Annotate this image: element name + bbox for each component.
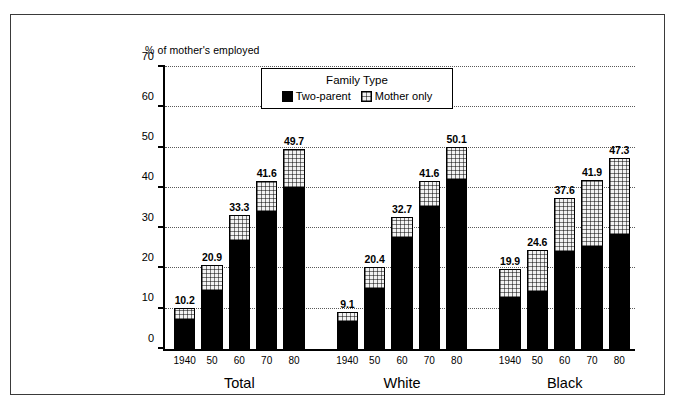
stacked-bar[interactable]: 19.9 xyxy=(499,269,520,349)
bar-slot: 33.360 xyxy=(226,67,253,349)
bar-slot: 20.950 xyxy=(198,67,225,349)
bar-slot: 32.760 xyxy=(388,67,415,349)
bar-segment-mother-only xyxy=(337,312,358,322)
y-tick-50 xyxy=(158,146,165,148)
bars-layer: 10.2194020.95033.36041.67049.780Total9.1… xyxy=(165,67,635,349)
x-axis-label: 50 xyxy=(532,355,543,366)
bar-segment-mother-only xyxy=(229,215,250,241)
bar-slot: 37.660 xyxy=(551,67,578,349)
bar-group-total: 10.2194020.95033.36041.67049.780Total xyxy=(171,67,308,349)
y-tick-20 xyxy=(158,266,165,268)
bar-segment-mother-only xyxy=(446,147,467,180)
legend-swatch-icon xyxy=(361,91,372,102)
bar-value-label: 41.6 xyxy=(419,167,439,179)
stacked-bar[interactable]: 32.7 xyxy=(391,217,412,349)
x-axis-label: 80 xyxy=(614,355,625,366)
bar-slot: 41.970 xyxy=(578,67,605,349)
group-label-white: White xyxy=(383,375,420,391)
bar-segment-mother-only xyxy=(554,198,575,253)
y-tick-60 xyxy=(158,105,165,107)
bar-value-label: 47.3 xyxy=(609,144,629,156)
group-label-total: Total xyxy=(224,375,255,391)
bar-segment-two-parent xyxy=(391,238,412,349)
bar-slot: 49.780 xyxy=(280,67,307,349)
bar-segment-two-parent xyxy=(174,320,195,349)
stacked-bar[interactable]: 9.1 xyxy=(337,312,358,349)
y-tick-30 xyxy=(158,226,165,228)
bar-value-label: 24.6 xyxy=(527,236,547,248)
x-axis-label: 80 xyxy=(451,355,462,366)
y-axis-label: 10 xyxy=(142,291,154,303)
stacked-bar[interactable]: 10.2 xyxy=(174,308,195,349)
bar-segment-mother-only xyxy=(283,149,304,188)
x-axis-label: 60 xyxy=(234,355,245,366)
bar-value-label: 20.4 xyxy=(365,253,385,265)
x-axis-label: 1940 xyxy=(336,355,358,366)
bar-slot: 24.650 xyxy=(524,67,551,349)
bar-value-label: 33.3 xyxy=(229,201,249,213)
bar-value-label: 37.6 xyxy=(555,184,575,196)
x-axis-label: 1940 xyxy=(499,355,521,366)
bar-value-label: 32.7 xyxy=(392,203,412,215)
stacked-bar[interactable]: 41.9 xyxy=(581,180,602,349)
bar-segment-two-parent xyxy=(446,180,467,349)
bar-segment-mother-only xyxy=(391,217,412,238)
y-tick-40 xyxy=(158,186,165,188)
bar-segment-two-parent xyxy=(283,188,304,349)
y-tick-10 xyxy=(158,307,165,309)
x-axis-label: 70 xyxy=(261,355,272,366)
stacked-bar[interactable]: 33.3 xyxy=(229,215,250,349)
bar-slot: 50.180 xyxy=(443,67,470,349)
stacked-bar[interactable]: 50.1 xyxy=(446,147,467,349)
y-axis-label: 60 xyxy=(142,90,154,102)
bar-segment-two-parent xyxy=(527,292,548,349)
bar-value-label: 50.1 xyxy=(447,133,467,145)
group-label-black: Black xyxy=(547,375,582,391)
x-axis-label: 70 xyxy=(586,355,597,366)
bar-segment-two-parent xyxy=(554,252,575,349)
y-axis-caption: % of mother's employed xyxy=(145,44,260,56)
bar-value-label: 19.9 xyxy=(500,255,520,267)
stacked-bar[interactable]: 47.3 xyxy=(609,158,630,349)
y-axis-label: 50 xyxy=(142,130,154,142)
bar-slot: 41.670 xyxy=(253,67,280,349)
legend-swatch-icon xyxy=(282,91,293,102)
legend-title: Family Type xyxy=(270,74,444,86)
bar-value-label: 20.9 xyxy=(202,251,222,263)
y-axis-label: 70 xyxy=(142,50,154,62)
figure-frame: % of mother's employed 010203040506070 1… xyxy=(10,14,665,395)
bar-slot: 41.670 xyxy=(416,67,443,349)
x-axis-label: 80 xyxy=(288,355,299,366)
stacked-bar[interactable]: 37.6 xyxy=(554,198,575,349)
bar-group-white: 9.1194020.45032.76041.67050.180White xyxy=(334,67,471,349)
bar-segment-two-parent xyxy=(256,212,277,349)
bar-value-label: 10.2 xyxy=(175,294,195,306)
x-axis-label: 60 xyxy=(396,355,407,366)
x-axis-label: 70 xyxy=(424,355,435,366)
y-axis-label: 40 xyxy=(142,170,154,182)
x-axis-label: 50 xyxy=(206,355,217,366)
bar-segment-mother-only xyxy=(499,269,520,298)
bar-segment-mother-only xyxy=(581,180,602,246)
stacked-bar[interactable]: 41.6 xyxy=(256,181,277,349)
stacked-bar[interactable]: 49.7 xyxy=(283,149,304,349)
y-axis-label: 20 xyxy=(142,251,154,263)
stacked-bar[interactable]: 20.9 xyxy=(201,265,222,349)
bar-segment-two-parent xyxy=(419,207,440,349)
bar-slot: 47.380 xyxy=(606,67,633,349)
y-axis-label: 0 xyxy=(148,332,154,344)
bar-segment-two-parent xyxy=(229,241,250,349)
bar-slot: 19.91940 xyxy=(496,67,523,349)
bar-value-label: 9.1 xyxy=(340,298,354,310)
bar-value-label: 41.9 xyxy=(582,166,602,178)
stacked-bar[interactable]: 24.6 xyxy=(527,250,548,349)
bar-segment-two-parent xyxy=(581,247,602,349)
stacked-bar[interactable]: 20.4 xyxy=(364,267,385,349)
bar-segment-two-parent xyxy=(201,291,222,349)
bar-value-label: 41.6 xyxy=(257,167,277,179)
y-tick-70 xyxy=(158,65,165,67)
stacked-bar[interactable]: 41.6 xyxy=(419,181,440,349)
bar-slot: 10.21940 xyxy=(171,67,198,349)
chart-legend: Family Type Two-parentMother only xyxy=(261,68,453,109)
bar-segment-mother-only xyxy=(256,181,277,212)
